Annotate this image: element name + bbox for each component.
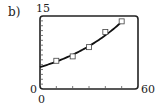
plot-area	[0, 0, 156, 106]
data-point-marker	[54, 58, 59, 63]
fit-curve	[40, 22, 122, 67]
data-point-marker	[103, 30, 108, 35]
plot-frame	[40, 16, 138, 89]
data-point-marker	[87, 45, 92, 50]
data-point-marker	[119, 19, 124, 24]
data-point-marker	[70, 54, 75, 59]
